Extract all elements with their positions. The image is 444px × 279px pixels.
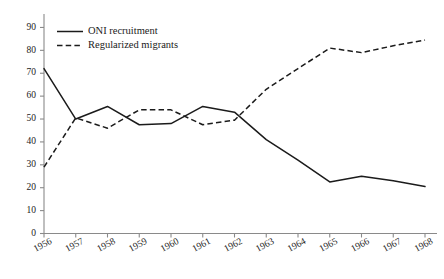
- x-tick-label: 1956: [32, 236, 54, 254]
- x-tick-label: 1961: [191, 236, 213, 254]
- y-tick-label: 20: [27, 182, 37, 192]
- series-line-oni-recruitment: [44, 69, 425, 187]
- x-tick-label: 1959: [127, 236, 149, 254]
- x-tick-labels: 1956195719581959196019611962196319641965…: [32, 236, 435, 254]
- y-tick-label: 80: [27, 45, 37, 55]
- y-axis: 0102030405060708090: [27, 14, 45, 238]
- x-tick-label: 1963: [254, 236, 276, 254]
- legend: ONI recruitment Regularized migrants: [57, 25, 178, 50]
- y-tick-labels: 0102030405060708090: [27, 22, 37, 238]
- x-tick-label: 1967: [381, 236, 403, 254]
- x-tick-label: 1968: [413, 236, 435, 254]
- x-tick-label: 1960: [159, 236, 181, 254]
- x-tick-label: 1966: [349, 236, 371, 254]
- series-line-regularized-migrants: [44, 40, 425, 167]
- y-tick-label: 90: [27, 22, 37, 32]
- chart-canvas: 0102030405060708090 19561957195819591960…: [0, 0, 444, 279]
- y-tick-marks: [40, 27, 44, 233]
- y-tick-label: 50: [27, 113, 37, 123]
- x-tick-label: 1964: [286, 236, 308, 254]
- y-tick-label: 70: [27, 67, 37, 77]
- y-tick-label: 30: [27, 159, 37, 169]
- legend-label-oni-recruitment: ONI recruitment: [88, 25, 158, 36]
- data-series-group: [44, 40, 425, 187]
- y-tick-label: 60: [27, 90, 37, 100]
- y-tick-label: 0: [31, 228, 36, 238]
- y-tick-label: 10: [27, 205, 37, 215]
- x-tick-label: 1957: [64, 236, 86, 254]
- x-tick-label: 1958: [95, 236, 117, 254]
- x-tick-label: 1965: [318, 236, 340, 254]
- legend-label-regularized-migrants: Regularized migrants: [88, 39, 178, 50]
- x-tick-marks: [44, 234, 425, 238]
- y-tick-label: 40: [27, 136, 37, 146]
- x-axis: 1956195719581959196019611962196319641965…: [32, 234, 437, 254]
- x-tick-label: 1962: [222, 236, 244, 254]
- line-chart-figure: 0102030405060708090 19561957195819591960…: [0, 0, 444, 279]
